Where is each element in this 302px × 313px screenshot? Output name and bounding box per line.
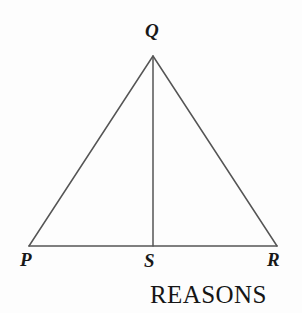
vertex-label-p: P	[20, 250, 32, 269]
vertex-label-r: R	[267, 250, 280, 269]
vertex-label-q: Q	[145, 21, 159, 40]
segment-pq	[29, 56, 153, 246]
segment-qr	[153, 56, 277, 246]
vertex-label-s: S	[144, 251, 155, 270]
reasons-caption: REASONS	[150, 282, 267, 307]
geometry-figure: Q P S R REASONS	[0, 0, 302, 313]
